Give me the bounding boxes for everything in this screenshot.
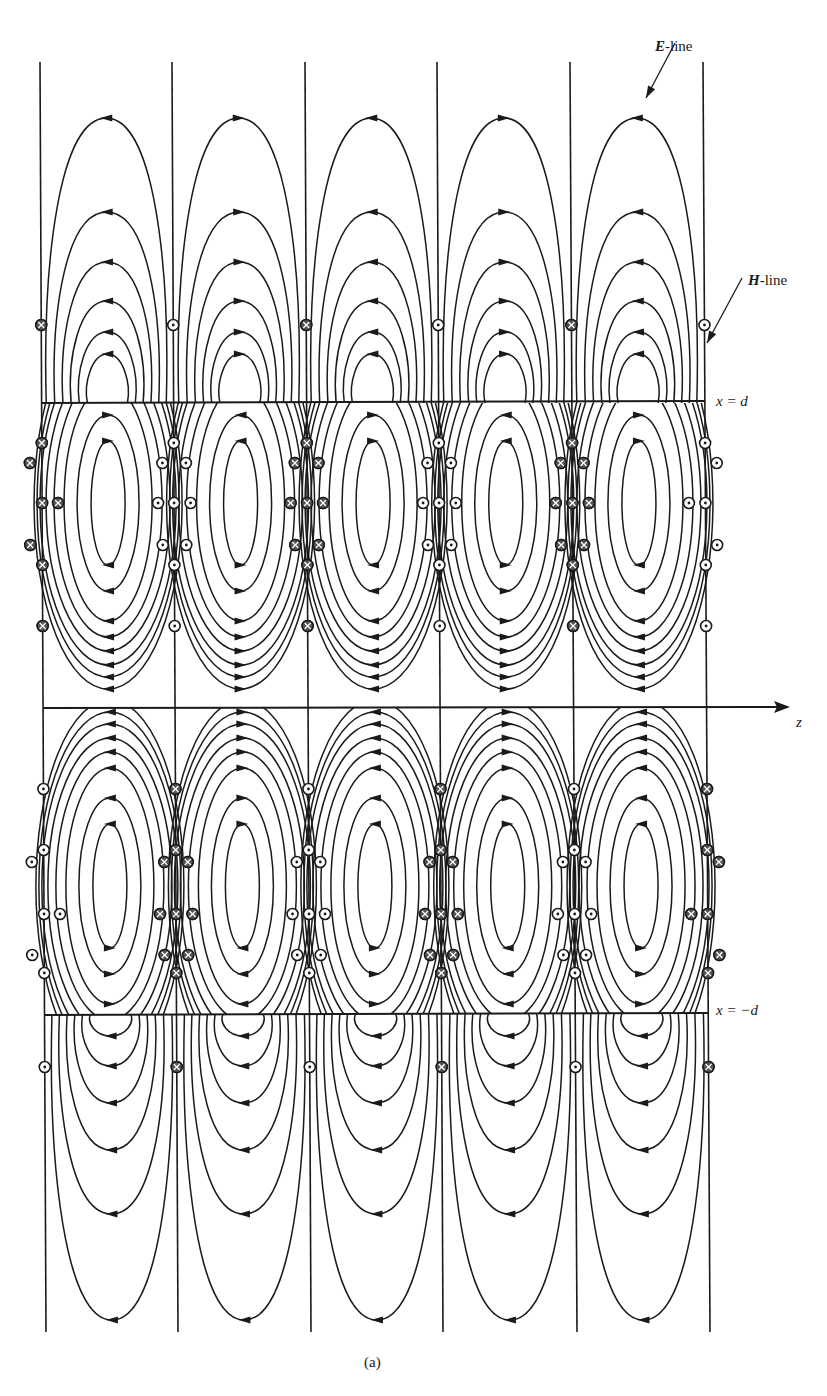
e-line-closed-loop	[567, 700, 715, 1072]
e-line-closed-loop	[301, 700, 449, 1072]
h-dot-icon	[185, 498, 196, 509]
arrow-left-icon	[502, 971, 514, 978]
e-line-closed-loop	[452, 369, 560, 637]
arrow-left-icon	[370, 1211, 382, 1218]
e-line-outer-lower	[184, 1014, 305, 1320]
e-line-closed-loop	[307, 724, 443, 1048]
arrow-left-icon	[105, 1147, 117, 1154]
h-dot-icon	[26, 857, 37, 868]
h-dot-icon	[38, 784, 49, 795]
h-dot-icon	[446, 540, 457, 551]
e-line-label: E-line	[655, 38, 693, 55]
arrow-right-icon	[499, 259, 511, 266]
arrow-right-icon	[234, 351, 246, 358]
e-line-outer-lower	[207, 1014, 281, 1103]
arrow-right-icon	[500, 674, 512, 681]
h-dot-icon	[169, 498, 180, 509]
arrow-left-icon	[105, 1033, 117, 1040]
e-line-closed-loop	[585, 369, 693, 637]
h-cross-icon	[578, 458, 589, 469]
h-line-column	[437, 62, 443, 1332]
arrow-right-icon	[502, 735, 514, 742]
h-dot-icon	[169, 621, 180, 632]
arrow-left-icon	[632, 298, 644, 305]
z-axis-line	[43, 707, 780, 708]
arrow-right-icon	[498, 209, 510, 216]
h-cross-icon	[436, 968, 447, 979]
e-line-closed-loop	[36, 700, 184, 1072]
arrow-left-icon	[105, 1211, 117, 1218]
h-dot-icon	[570, 1062, 581, 1073]
arrow-left-icon	[104, 749, 116, 756]
arrow-left-icon	[635, 749, 647, 756]
arrow-right-icon	[500, 686, 512, 693]
h-dot-icon	[169, 560, 180, 571]
arrow-right-icon	[235, 686, 247, 693]
arrow-left-icon	[101, 329, 113, 336]
h-cross-icon	[290, 540, 301, 551]
arrow-right-icon	[369, 1001, 381, 1008]
h-cross-icon	[578, 540, 589, 551]
h-cross-icon	[182, 857, 193, 868]
h-cross-icon	[313, 540, 324, 551]
arrow-right-icon	[500, 634, 512, 641]
arrow-left-icon	[502, 1001, 514, 1008]
h-dot-icon	[304, 909, 315, 920]
h-line-columns	[40, 62, 710, 1332]
h-cross-icon	[583, 498, 594, 509]
h-dot-icon	[39, 1062, 50, 1073]
h-cross-icon	[171, 1062, 182, 1073]
e-line-closed-loop	[570, 712, 712, 1060]
arrow-left-icon	[635, 735, 647, 742]
e-line-outer-upper	[343, 332, 401, 403]
arrow-right-icon	[635, 1001, 647, 1008]
h-dot-icon	[181, 540, 192, 551]
h-dot-icon	[292, 950, 303, 961]
arrow-left-icon	[104, 765, 116, 772]
h-cross-icon	[187, 909, 198, 920]
arrow-right-icon	[236, 721, 248, 728]
arrow-right-icon	[499, 329, 511, 336]
arrow-left-icon	[633, 648, 645, 655]
upper-boundary-line	[42, 401, 705, 403]
h-dot-icon	[569, 845, 580, 856]
e-line-closed-loop	[54, 369, 162, 637]
h-cross-icon	[289, 458, 300, 469]
inner-loops-upper	[34, 317, 713, 693]
h-cross-icon	[37, 560, 48, 571]
arrow-right-icon	[633, 412, 645, 419]
arrow-right-icon	[502, 795, 514, 802]
h-dot-icon	[581, 950, 592, 961]
arrow-left-icon	[636, 1147, 648, 1154]
h-dot-icon	[168, 438, 179, 449]
h-dot-icon	[315, 950, 326, 961]
h-cross-icon	[436, 1062, 447, 1073]
arrow-left-icon	[632, 351, 644, 358]
h-cross-icon	[301, 320, 312, 331]
h-cross-icon	[567, 498, 578, 509]
e-line-closed-loop	[187, 369, 295, 637]
arrow-left-icon	[238, 1211, 250, 1218]
arrow-right-icon	[369, 971, 381, 978]
h-dot-icon	[569, 909, 580, 920]
h-cross-icon	[567, 560, 578, 571]
h-dot-icon	[557, 857, 568, 868]
arrow-left-icon	[101, 351, 113, 358]
h-dot-icon	[700, 438, 711, 449]
h-cross-icon	[452, 909, 463, 920]
arrow-left-icon	[102, 618, 114, 625]
te-mode-field-diagram	[0, 0, 827, 1396]
h-dot-icon	[586, 909, 597, 920]
arrow-left-icon	[632, 329, 644, 336]
h-dot-icon	[570, 968, 581, 979]
arrow-left-icon	[102, 648, 114, 655]
arrow-left-icon	[105, 1063, 117, 1070]
e-line-closed-loop	[319, 369, 427, 637]
inner-e-loops	[34, 317, 715, 1072]
h-dot-icon	[157, 458, 168, 469]
arrow-right-icon	[102, 412, 114, 419]
arrow-left-icon	[104, 795, 116, 802]
h-dot-icon	[39, 968, 50, 979]
h-cross-icon	[435, 845, 446, 856]
e-line-closed-loop	[91, 441, 125, 565]
